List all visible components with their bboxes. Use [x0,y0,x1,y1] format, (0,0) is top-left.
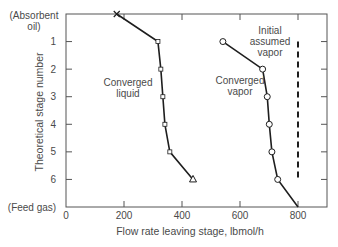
annotation-initial-line1: Initial [258,25,281,36]
point-marker [156,40,160,44]
point-marker [163,122,167,126]
annotation-liquid-line1: Converged [104,77,153,88]
annotation-liquid-line2: liquid [116,88,139,99]
x-tick-label: 600 [232,210,249,221]
y-tick-label: 3 [50,91,56,102]
point-marker [168,150,172,154]
y-axis-title: Theoretical stage number [33,52,45,172]
annotation-vapor-line2: vapor [227,86,253,97]
x-tick-label: 0 [63,210,69,221]
y-tick-label: 5 [50,146,56,157]
point-marker [159,67,163,71]
axis-tick-labels: 0200400600800123456 [50,36,306,221]
point-marker [161,95,165,99]
y-tick-label: 6 [50,174,56,185]
point-marker [275,176,281,182]
y-top-label-line2: oil) [27,21,40,32]
x-axis-title: Flow rate leaving stage, lbmol/h [116,225,264,237]
point-marker [269,149,275,155]
y-tick-label: 1 [50,36,56,47]
point-marker [220,39,226,45]
point-marker [266,121,272,127]
x-tick-label: 200 [116,210,133,221]
y-tick-label: 2 [50,64,56,75]
point-marker [260,66,266,72]
series-line [223,42,298,207]
x-tick-label: 800 [290,210,307,221]
x-tick-label: 400 [174,210,191,221]
y-bottom-label: (Feed gas) [8,202,56,213]
point-marker [264,94,270,100]
y-tick-label: 4 [50,119,56,130]
annotation-initial-line3: vapor [257,47,283,58]
y-top-label-line1: (Absorbent [10,10,59,21]
chart: 0200400600800123456 (Absorbent oil) (Fee… [0,0,338,247]
annotation-vapor-line1: Converged [216,75,265,86]
annotation-initial-line2: assumed [250,36,291,47]
